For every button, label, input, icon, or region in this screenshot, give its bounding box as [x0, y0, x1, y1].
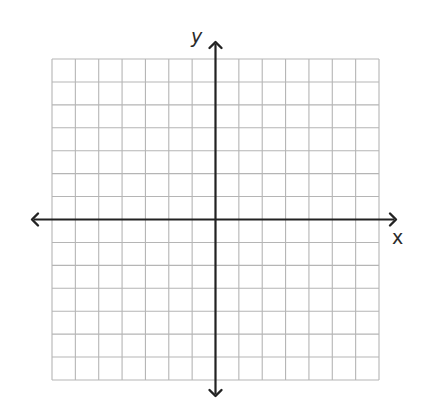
y-axis-label: y — [191, 27, 202, 46]
x-axis-label: x — [392, 228, 403, 247]
coordinate-plane — [0, 0, 422, 420]
axes — [32, 42, 396, 396]
